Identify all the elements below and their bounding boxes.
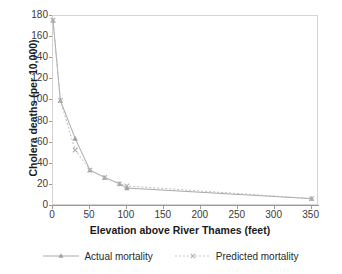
legend-swatch-predicted-icon: [175, 251, 211, 261]
x-tick-label: 100: [106, 209, 146, 220]
x-tick-mark: [126, 205, 127, 209]
x-tick-label: 50: [69, 209, 109, 220]
legend-item-predicted: Predicted mortality: [175, 251, 299, 262]
x-tick-label: 300: [254, 209, 294, 220]
x-tick-mark: [52, 205, 53, 209]
chart-figure: 020406080100120140160180 050100150200250…: [0, 0, 342, 274]
legend-swatch-actual-icon: [43, 251, 79, 261]
x-tick-mark: [163, 205, 164, 209]
x-tick-mark: [311, 205, 312, 209]
x-tick-mark: [237, 205, 238, 209]
legend-label-predicted: Predicted mortality: [216, 251, 299, 262]
x-axis-title: Elevation above River Thames (feet): [30, 224, 330, 236]
legend-label-actual: Actual mortality: [84, 251, 152, 262]
x-tick-label: 250: [217, 209, 257, 220]
x-tick-label: 0: [32, 209, 72, 220]
x-tick-mark: [200, 205, 201, 209]
x-tick-mark: [89, 205, 90, 209]
y-axis-title: Cholera deaths (per 10,000): [27, 13, 39, 203]
x-tick-label: 200: [180, 209, 220, 220]
x-tick-label: 350: [291, 209, 331, 220]
chart-legend: Actual mortality Predicted mortality: [0, 246, 342, 266]
x-tick-mark: [274, 205, 275, 209]
legend-item-actual: Actual mortality: [43, 251, 152, 262]
x-tick-label: 150: [143, 209, 183, 220]
